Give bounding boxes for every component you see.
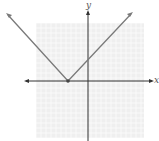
right-arrowhead-icon (127, 12, 133, 17)
vertex-point (66, 79, 70, 83)
y-axis-up-arrow-icon (86, 10, 90, 15)
absolute-value-graph (0, 0, 159, 141)
x-axis-left-arrow-icon (24, 79, 29, 83)
y-axis-label: y (86, 0, 91, 10)
left-arrowhead-icon (6, 13, 12, 18)
x-axis-label: x (154, 75, 159, 85)
